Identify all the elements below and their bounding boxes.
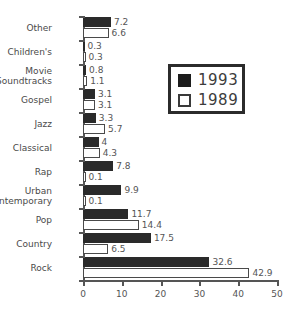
y-tick [79, 64, 85, 66]
bar-1993 [83, 257, 209, 267]
bar-1989 [83, 268, 249, 278]
bar-group: Classical44.3 [83, 136, 277, 160]
y-tick [79, 208, 85, 210]
bar-1989 [83, 124, 105, 134]
hollow-square-icon [178, 94, 191, 107]
bar-value-1993: 3.3 [99, 113, 113, 123]
bar-1993 [83, 41, 85, 51]
category-label: Movie Soundtracks [0, 66, 52, 86]
category-label: Rap [0, 167, 52, 177]
category-label: Pop [0, 215, 52, 225]
bar-value-1989: 14.4 [142, 220, 162, 230]
bar-value-1993: 3.1 [98, 89, 112, 99]
bar-value-1989: 4.3 [103, 148, 117, 158]
category-label: Other [0, 23, 52, 33]
bar-1989 [83, 196, 86, 206]
bar-group: Jazz3.35.7 [83, 112, 277, 136]
bar-1989 [83, 148, 100, 158]
legend-entry-1989: 1989 [178, 91, 238, 109]
bar-group: Rock32.642.9 [83, 256, 277, 280]
y-tick [79, 160, 85, 162]
bar-1993 [83, 65, 86, 75]
legend-entry-1993: 1993 [178, 71, 238, 89]
x-tick-label: 30 [194, 289, 205, 299]
bar-1993 [83, 137, 99, 147]
x-tick [238, 280, 240, 286]
legend-label-1993: 1993 [198, 71, 238, 89]
bar-1989 [83, 52, 86, 62]
legend-label-1989: 1989 [198, 91, 238, 109]
bar-1993 [83, 161, 113, 171]
bar-1989 [83, 220, 139, 230]
bar-group: Other7.26.6 [83, 16, 277, 40]
bar-value-1989: 0.3 [89, 52, 103, 62]
category-label: Children's [0, 47, 52, 57]
y-tick [79, 256, 85, 258]
bar-1993 [83, 89, 95, 99]
bar-group: Children's0.30.3 [83, 40, 277, 64]
y-tick [79, 112, 85, 114]
bar-value-1993: 4 [102, 137, 108, 147]
plot-area: Other7.26.6Children's0.30.3Movie Soundtr… [83, 16, 277, 280]
bar-1989 [83, 28, 109, 38]
bar-value-1993: 0.3 [88, 41, 102, 51]
bar-value-1993: 0.8 [89, 65, 103, 75]
bar-value-1993: 7.8 [116, 161, 130, 171]
x-tick-label: 50 [271, 289, 282, 299]
x-tick-label: 0 [80, 289, 86, 299]
chart-legend: 1993 1989 [168, 64, 245, 114]
category-label: Rock [0, 263, 52, 273]
bar-1989 [83, 172, 86, 182]
x-tick [277, 280, 279, 286]
bar-value-1989: 5.7 [108, 124, 122, 134]
bar-group: Urban Contemporary9.90.1 [83, 184, 277, 208]
category-label: Classical [0, 143, 52, 153]
x-tick [122, 280, 124, 286]
bar-value-1989: 42.9 [252, 268, 272, 278]
x-tick [83, 280, 85, 286]
bar-value-1993: 9.9 [124, 185, 138, 195]
bar-group: Country17.56.5 [83, 232, 277, 256]
x-tick [199, 280, 201, 286]
x-tick-label: 10 [116, 289, 127, 299]
filled-square-icon [178, 74, 191, 87]
bar-1993 [83, 185, 121, 195]
bar-value-1989: 1.1 [90, 76, 104, 86]
category-label: Gospel [0, 95, 52, 105]
bar-value-1989: 0.1 [89, 172, 103, 182]
bar-chart: Other7.26.6Children's0.30.3Movie Soundtr… [0, 0, 304, 312]
y-tick [79, 88, 85, 90]
y-tick [79, 16, 85, 18]
category-label: Urban Contemporary [0, 186, 52, 206]
y-tick [79, 184, 85, 186]
bar-1993 [83, 209, 128, 219]
bar-1989 [83, 244, 108, 254]
x-tick-label: 20 [155, 289, 166, 299]
bar-value-1989: 6.5 [111, 244, 125, 254]
bar-1993 [83, 17, 111, 27]
y-tick [79, 136, 85, 138]
category-label: Jazz [0, 119, 52, 129]
x-tick [161, 280, 163, 286]
bar-value-1993: 17.5 [154, 233, 174, 243]
bar-value-1993: 7.2 [114, 17, 128, 27]
x-axis-line [83, 280, 278, 282]
bar-group: Pop11.714.4 [83, 208, 277, 232]
footer-note [176, 305, 304, 312]
y-tick [79, 40, 85, 42]
bar-value-1989: 6.6 [112, 28, 126, 38]
bar-1989 [83, 76, 87, 86]
bar-1989 [83, 100, 95, 110]
bar-value-1989: 3.1 [98, 100, 112, 110]
x-tick-label: 40 [232, 289, 243, 299]
y-tick [79, 232, 85, 234]
bar-value-1993: 32.6 [212, 257, 232, 267]
bar-value-1989: 0.1 [89, 196, 103, 206]
bar-1993 [83, 233, 151, 243]
bar-1993 [83, 113, 96, 123]
bar-value-1993: 11.7 [131, 209, 151, 219]
category-label: Country [0, 239, 52, 249]
bar-group: Rap7.80.1 [83, 160, 277, 184]
